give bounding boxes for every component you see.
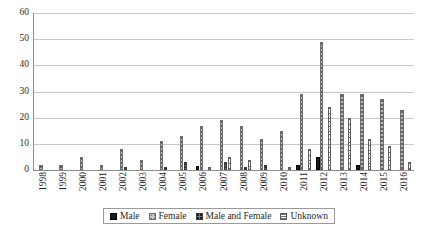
legend-label: Unknown <box>290 211 327 221</box>
bar-unknown-2016 <box>408 162 411 170</box>
x-tick-label-2001: 2001 <box>98 172 108 191</box>
bar-female-2014 <box>360 94 363 170</box>
bar-female-2012 <box>320 42 323 170</box>
bar-group <box>336 13 351 170</box>
x-tick-label-2010: 2010 <box>279 172 289 191</box>
bar-female-2001 <box>100 165 103 170</box>
x-tick-label-2003: 2003 <box>138 172 148 191</box>
x-tick-label-2014: 2014 <box>359 172 369 191</box>
bar-unknown-2011 <box>308 149 311 170</box>
bar-female-2016 <box>400 110 403 170</box>
bar-unknown-2013 <box>348 118 351 170</box>
bar-mf-2002 <box>124 167 127 170</box>
legend-swatch-unknown-icon <box>280 213 287 220</box>
bar-group <box>156 13 171 170</box>
y-tick-label: 30 <box>3 87 29 97</box>
legend-swatch-female-icon <box>149 213 156 220</box>
x-tick-label-2005: 2005 <box>178 172 188 191</box>
legend-item-male[interactable]: Male <box>110 211 140 221</box>
bar-female-1998 <box>39 165 42 170</box>
bar-female-2006 <box>200 126 203 170</box>
bar-female-2013 <box>340 94 343 170</box>
y-tick-label: 20 <box>3 113 29 123</box>
bar-female-2015 <box>380 99 383 170</box>
legend-item-female[interactable]: Female <box>149 211 187 221</box>
bar-unknown-2012 <box>328 107 331 170</box>
x-tick-label-2006: 2006 <box>198 172 208 191</box>
bar-group <box>316 13 331 170</box>
bar-male-2014 <box>356 165 359 170</box>
bar-group <box>56 13 71 170</box>
bar-female-2005 <box>180 136 183 170</box>
bar-unknown-2008 <box>248 160 251 170</box>
legend-item-unknown[interactable]: Unknown <box>280 211 327 221</box>
x-tick-label-2016: 2016 <box>399 172 409 191</box>
legend-item-mf[interactable]: Male and Female <box>196 211 272 221</box>
y-tick-label: 60 <box>3 8 29 18</box>
bar-group <box>96 13 111 170</box>
x-tick-label-2015: 2015 <box>379 172 389 191</box>
x-tick-label-2012: 2012 <box>319 172 329 191</box>
x-tick-label-2013: 2013 <box>339 172 349 191</box>
legend-swatch-mf-icon <box>196 213 203 220</box>
bar-group <box>276 13 291 170</box>
bar-male-2006 <box>196 166 199 170</box>
legend-label: Male and Female <box>206 211 272 221</box>
bar-unknown-2010 <box>288 167 291 170</box>
bar-mf-2005 <box>184 162 187 170</box>
bar-mf-2008 <box>244 167 247 170</box>
x-tick-label-2008: 2008 <box>239 172 249 191</box>
bar-female-2007 <box>220 120 223 170</box>
bar-female-2010 <box>280 131 283 170</box>
x-tick-label-1998: 1998 <box>38 172 48 191</box>
bar-group <box>356 13 371 170</box>
bar-group <box>396 13 411 170</box>
bar-mf-2004 <box>164 167 167 170</box>
x-tick-label-2002: 2002 <box>118 172 128 191</box>
bar-male-2012 <box>316 157 319 170</box>
x-tick-label-2011: 2011 <box>299 172 309 191</box>
bar-female-2004 <box>160 141 163 170</box>
y-tick-label: 10 <box>3 139 29 149</box>
plot-area <box>33 13 414 170</box>
bar-group <box>296 13 311 170</box>
bar-female-2000 <box>80 157 83 170</box>
bar-mf-2007 <box>224 162 227 170</box>
y-tick-label: 50 <box>3 34 29 44</box>
bar-female-2002 <box>120 149 123 170</box>
legend-swatch-male-icon <box>110 213 117 220</box>
legend-label: Male <box>120 211 140 221</box>
x-axis-tick-labels: 1998199920002001200220032004200520062007… <box>33 172 414 206</box>
bar-female-2009 <box>260 139 263 170</box>
legend-label: Female <box>159 211 187 221</box>
x-tick-label-1999: 1999 <box>58 172 68 191</box>
bar-group <box>376 13 391 170</box>
bar-group <box>116 13 131 170</box>
bar-male-2011 <box>296 165 299 170</box>
bar-chart: 0102030405060 19981999200020012002200320… <box>0 0 422 235</box>
x-tick-label-2000: 2000 <box>78 172 88 191</box>
bar-mf-2009 <box>264 165 267 170</box>
bar-group <box>216 13 231 170</box>
bar-unknown-2014 <box>368 139 371 170</box>
bar-unknown-2007 <box>228 157 231 170</box>
bar-group <box>176 13 191 170</box>
bar-group <box>136 13 151 170</box>
bar-group <box>76 13 91 170</box>
bar-female-2008 <box>240 126 243 170</box>
y-tick-label: 40 <box>3 60 29 70</box>
x-axis-line <box>33 170 414 171</box>
y-axis-line <box>33 13 34 170</box>
bar-group <box>256 13 271 170</box>
x-tick-label-2007: 2007 <box>219 172 229 191</box>
chart-legend: MaleFemaleMale and FemaleUnknown <box>103 208 335 224</box>
bar-unknown-2015 <box>388 146 391 170</box>
x-tick-label-2004: 2004 <box>158 172 168 191</box>
y-tick-label: 0 <box>3 165 29 175</box>
bar-group <box>236 13 251 170</box>
bar-female-2011 <box>300 94 303 170</box>
bar-female-1999 <box>59 165 62 170</box>
bar-female-2003 <box>140 160 143 170</box>
y-axis-tick-labels: 0102030405060 <box>0 13 29 170</box>
bar-group <box>196 13 211 170</box>
